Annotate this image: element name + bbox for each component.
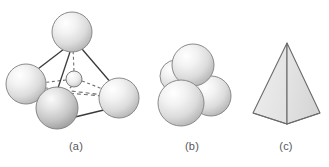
sphere-top	[52, 12, 92, 52]
panel-b-close-packed-cluster	[158, 44, 231, 126]
caption-panel-a: (a)	[46, 140, 106, 152]
panel-c-solid-tetrahedron	[253, 43, 320, 124]
sphere-front-left	[158, 80, 204, 126]
tetrahedron-face-right	[287, 43, 320, 124]
caption-panel-c: (c)	[256, 140, 316, 152]
caption-panel-b: (b)	[162, 140, 222, 152]
tetrahedron-face-left	[253, 43, 287, 124]
bond-solid-top-right	[82, 49, 112, 84]
figure-tetrahedral-coordination: (a) (b) (c)	[0, 0, 329, 167]
sphere-right	[99, 78, 139, 118]
sphere-center-small	[66, 71, 82, 87]
sphere-front-bottom	[36, 87, 78, 129]
panel-a-ball-and-stick	[6, 12, 139, 129]
